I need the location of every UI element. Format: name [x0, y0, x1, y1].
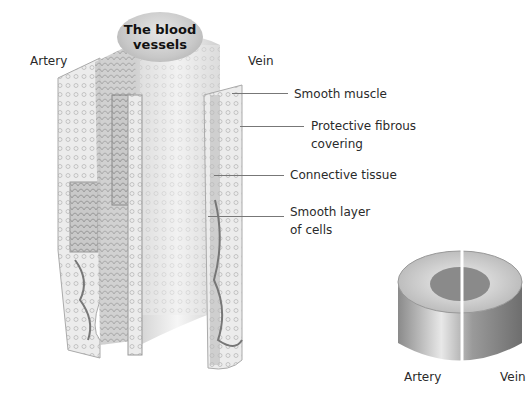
callout-smooth-muscle: Smooth muscle: [294, 87, 387, 102]
cross-section-ring: [398, 250, 522, 373]
label-artery-cross-section: Artery: [404, 370, 441, 385]
label-vein-cross-section: Vein: [500, 370, 526, 385]
title-badge: The blood vessels: [117, 12, 203, 62]
callout-smooth-layer-of-cells-line1: Smooth layer: [290, 205, 370, 220]
title-line-1: The blood: [124, 22, 196, 37]
label-artery-main: Artery: [30, 54, 67, 69]
leader-connective-tissue: [214, 175, 284, 176]
vein-wall: [204, 85, 242, 369]
callout-smooth-layer-of-cells-line2: of cells: [290, 223, 332, 238]
callout-protective-fibrous-covering-line2: covering: [311, 137, 363, 152]
leader-smooth-layer-of-cells: [208, 216, 284, 217]
callout-connective-tissue: Connective tissue: [290, 168, 397, 183]
leader-protective-fibrous-covering: [240, 126, 304, 127]
label-vein-main: Vein: [248, 54, 274, 69]
callout-protective-fibrous-covering-line1: Protective fibrous: [311, 119, 416, 134]
title-line-2: vessels: [133, 37, 187, 52]
leader-smooth-muscle: [232, 93, 288, 94]
